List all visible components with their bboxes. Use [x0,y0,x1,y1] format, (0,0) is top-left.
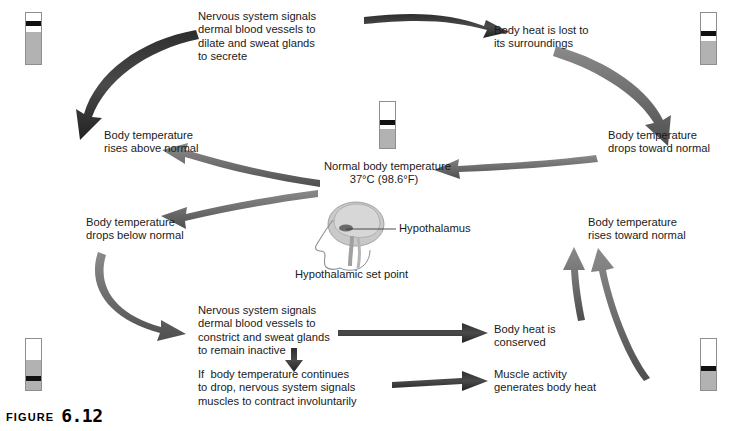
label-shivering-signal: If body temperature continues to drop, n… [198,368,357,408]
thermometer-fill [380,129,395,148]
label-bottom-left-signal: Nervous system signals dermal blood vess… [198,304,330,358]
arrow-signal-to-heatlost [364,14,509,38]
arrow-constrict-to-conserved [338,323,488,343]
arrow-shiver-to-muscle [392,371,488,391]
label-temp-drops-below-normal: Body temperature drops below normal [86,216,184,243]
thermometer-fill [701,41,716,64]
brainstem [350,236,352,266]
label-muscle-activity: Muscle activity generates body heat [494,368,596,395]
arrow-dropsbelow-to-bottomsignal [95,252,186,341]
spinal-cord [358,238,360,268]
thermometer-top-right [700,12,717,65]
label-normal-temp-line1: Normal body temperature [324,160,444,173]
label-hypothalamus: Hypothalamus [399,222,471,235]
thermometer-bottom-left [25,338,42,391]
arrow-risesabove-to-signal [76,30,199,140]
figure-canvas: Nervous system signals dermal blood vess… [0,0,741,431]
label-top-right-heat-lost: Body heat is lost to its surroundings [494,24,589,51]
cerebrum-shape [334,204,380,237]
label-temp-rises-above-normal: Body temperature rises above normal [104,129,199,156]
arrow-normal-to-dropsbelow [161,190,318,229]
label-temp-rises-toward-normal: Body temperature rises toward normal [588,216,686,243]
thermometer-band [26,21,41,26]
thermometer-bottom-right [700,338,717,391]
label-top-left-signal: Nervous system signals dermal blood vess… [198,10,316,64]
label-normal-temp-line2: 37°C (98.6°F) [324,173,444,186]
label-temp-drops-toward-normal: Body temperature drops toward normal [608,129,710,156]
thermometer-band [380,120,395,125]
thermometer-band [701,31,716,36]
arrow-muscle-to-risestoward [591,248,650,381]
figure-caption-word: FIGURE [6,411,54,423]
thermometer-center [379,101,396,149]
thermometer-fill [26,32,41,64]
thermometer-fill [701,371,716,390]
arrow-conserved-to-risestoward [563,247,585,321]
thermometer-top-left [25,12,42,65]
hypothalamus-region [339,224,353,231]
thermometer-band [26,376,41,381]
thermometer-band [701,366,716,371]
label-hypothalamic-set-point: Hypothalamic set point [295,268,408,281]
arrow-dropstoward-to-normal [434,155,598,179]
figure-caption-number: 6.12 [61,405,102,426]
figure-caption: FIGURE 6.12 [6,404,103,425]
label-body-heat-conserved: Body heat is conserved [494,323,556,350]
